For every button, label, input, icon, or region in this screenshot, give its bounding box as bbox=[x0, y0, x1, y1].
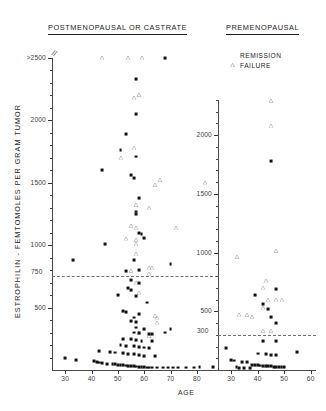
data-point-remission bbox=[263, 278, 268, 282]
y-minor-tick bbox=[50, 95, 53, 96]
data-point-failure bbox=[101, 169, 104, 172]
data-point-remission bbox=[100, 56, 105, 60]
x-major-tick bbox=[284, 370, 285, 374]
legend-label-failure: FAILURE bbox=[240, 62, 271, 69]
data-point-failure bbox=[262, 303, 265, 306]
data-point-remission bbox=[152, 183, 157, 187]
y-minor-tick bbox=[216, 206, 219, 207]
y-minor-tick bbox=[50, 345, 53, 346]
left-panel-title: POSTMENOPAUSAL OR CASTRATE bbox=[48, 23, 187, 35]
right-threshold-label: 300 bbox=[196, 327, 210, 334]
data-point-remission bbox=[134, 252, 139, 256]
data-point-failure bbox=[137, 196, 140, 199]
data-point-failure bbox=[198, 366, 201, 369]
data-point-failure bbox=[296, 351, 299, 354]
data-point-failure bbox=[164, 57, 167, 60]
data-point-failure bbox=[283, 366, 286, 369]
data-point-remission bbox=[150, 265, 155, 269]
y-minor-tick bbox=[216, 170, 219, 171]
y-minor-tick bbox=[50, 170, 53, 171]
legend-item-remission: REMISSION bbox=[229, 51, 309, 61]
data-point-failure bbox=[275, 322, 278, 325]
data-point-failure bbox=[135, 113, 138, 116]
data-point-remission bbox=[155, 315, 160, 319]
data-point-failure bbox=[132, 331, 135, 334]
data-point-failure bbox=[103, 242, 106, 245]
data-point-failure bbox=[172, 366, 175, 369]
data-point-failure bbox=[262, 339, 265, 342]
data-point-failure bbox=[151, 366, 154, 369]
y-minor-tick bbox=[50, 145, 53, 146]
data-point-remission bbox=[234, 255, 239, 259]
data-point-failure bbox=[211, 366, 214, 369]
data-point-failure bbox=[254, 293, 257, 296]
data-point-failure bbox=[130, 338, 133, 341]
data-point-failure bbox=[135, 339, 138, 342]
data-point-failure bbox=[109, 350, 112, 353]
data-point-failure bbox=[143, 346, 146, 349]
data-point-remission bbox=[274, 249, 279, 253]
x-major-tick bbox=[118, 370, 119, 374]
y-minor-tick bbox=[50, 208, 53, 209]
y-minor-tick bbox=[216, 276, 219, 277]
data-point-remission bbox=[245, 313, 250, 317]
data-point-failure bbox=[106, 362, 109, 365]
y-minor-tick bbox=[216, 182, 219, 183]
data-point-remission bbox=[134, 242, 139, 246]
data-point-failure bbox=[185, 366, 188, 369]
data-point-failure bbox=[275, 354, 278, 357]
y-minor-tick bbox=[50, 195, 53, 196]
y-major-tick bbox=[48, 58, 53, 59]
left-threshold-label: 750 bbox=[30, 268, 44, 275]
data-point-failure bbox=[243, 366, 246, 369]
data-point-failure bbox=[135, 326, 138, 329]
data-point-failure bbox=[270, 353, 273, 356]
y-major-tick bbox=[214, 253, 219, 254]
data-point-failure bbox=[256, 352, 259, 355]
data-point-failure bbox=[124, 344, 127, 347]
data-point-failure bbox=[246, 361, 249, 364]
data-point-failure bbox=[72, 259, 75, 262]
y-minor-tick bbox=[50, 220, 53, 221]
data-point-remission bbox=[147, 271, 152, 275]
data-point-failure bbox=[169, 327, 172, 330]
y-minor-tick bbox=[216, 323, 219, 324]
data-point-remission bbox=[261, 285, 266, 289]
y-minor-tick bbox=[216, 300, 219, 301]
x-major-tick bbox=[144, 370, 145, 374]
data-point-remission bbox=[266, 297, 271, 301]
y-minor-tick bbox=[216, 217, 219, 218]
data-point-failure bbox=[145, 301, 148, 304]
right-threshold-line bbox=[218, 335, 316, 336]
data-point-failure bbox=[240, 360, 243, 363]
y-tick-label: 1500 bbox=[193, 190, 212, 197]
y-minor-tick bbox=[216, 241, 219, 242]
y-minor-tick bbox=[50, 295, 53, 296]
x-tick-label: 40 bbox=[85, 375, 99, 382]
y-tick-label: 1000 bbox=[193, 249, 212, 256]
data-point-failure bbox=[119, 149, 122, 152]
data-point-failure bbox=[238, 366, 241, 369]
y-minor-tick bbox=[216, 347, 219, 348]
x-major-tick bbox=[171, 370, 172, 374]
data-point-remission bbox=[131, 145, 136, 149]
x-tick-label: 60 bbox=[304, 375, 318, 382]
x-major-tick bbox=[92, 370, 93, 374]
y-tick-label: 500 bbox=[197, 307, 212, 314]
data-point-failure bbox=[122, 352, 125, 355]
x-major-tick bbox=[197, 370, 198, 374]
data-point-failure bbox=[151, 340, 154, 343]
data-point-remission bbox=[131, 96, 136, 100]
data-point-failure bbox=[164, 331, 167, 334]
data-point-remission bbox=[274, 297, 279, 301]
data-point-failure bbox=[275, 339, 278, 342]
y-minor-tick bbox=[50, 333, 53, 334]
axis-break-icon: // bbox=[50, 48, 58, 58]
data-point-failure bbox=[74, 359, 77, 362]
data-point-failure bbox=[135, 78, 138, 81]
data-point-failure bbox=[135, 320, 138, 323]
data-point-failure bbox=[275, 288, 278, 291]
legend: REMISSION FAILURE bbox=[229, 51, 309, 71]
data-point-remission bbox=[139, 56, 144, 60]
y-major-tick bbox=[48, 308, 53, 309]
